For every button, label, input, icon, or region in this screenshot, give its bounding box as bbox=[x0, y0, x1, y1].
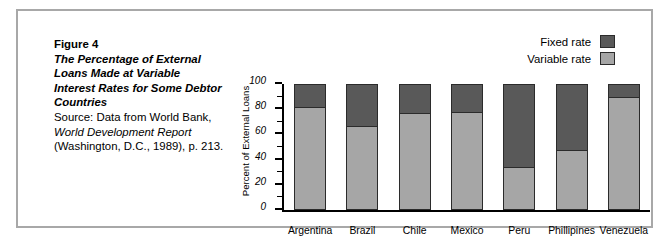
y-axis-tick-label: 20 bbox=[255, 176, 266, 187]
y-axis-tick-label: 100 bbox=[249, 75, 266, 86]
chart-axes: 020406080100 ArgentinaBrazilChileMexicoP… bbox=[282, 84, 650, 210]
y-axis-tick: 0 bbox=[275, 208, 282, 210]
bar-segment-fixed-rate bbox=[503, 84, 535, 167]
legend-label-variable-rate: Variable rate bbox=[527, 53, 591, 65]
figure-source-line-1: Source: Data from World Bank, bbox=[54, 110, 254, 125]
x-axis-label: Peru bbox=[494, 225, 544, 236]
x-axis-line bbox=[282, 210, 650, 212]
bar-column bbox=[556, 84, 588, 210]
figure-title-line-1: The Percentage of External bbox=[54, 52, 254, 67]
figure-frame: Figure 4 The Percentage of External Loan… bbox=[16, 9, 653, 228]
bar-segment-fixed-rate bbox=[451, 84, 483, 112]
bar-segment-fixed-rate bbox=[556, 84, 588, 150]
x-axis-label: Brazil bbox=[337, 225, 387, 236]
figure-source-line-3: (Washington, D.C., 1989), p. 213. bbox=[54, 139, 254, 154]
x-axis-labels: ArgentinaBrazilChileMexicoPeruPhillipine… bbox=[284, 225, 650, 236]
bar-column bbox=[451, 84, 483, 210]
bar-segment-variable-rate bbox=[556, 150, 588, 210]
bar-segment-fixed-rate bbox=[608, 84, 640, 97]
figure-container: Figure 4 The Percentage of External Loan… bbox=[0, 0, 669, 238]
bar-segment-variable-rate bbox=[608, 97, 640, 210]
x-axis-label: Mexico bbox=[442, 225, 492, 236]
x-axis-label: Venezuela bbox=[599, 225, 649, 236]
chart-legend: Fixed rate Variable rate bbox=[527, 35, 615, 65]
y-axis-tick bbox=[277, 121, 282, 122]
bar-segment-fixed-rate bbox=[399, 84, 431, 113]
y-axis-tick-label: 80 bbox=[255, 100, 266, 111]
y-axis-tick: 40 bbox=[275, 158, 282, 160]
x-axis-label: Argentina bbox=[285, 225, 335, 236]
figure-title-line-3: Interest Rates for Some Debtor bbox=[54, 81, 254, 96]
bar-segment-variable-rate bbox=[451, 112, 483, 210]
chart-plot-area: Percent of External Loans 020406080100 A… bbox=[244, 71, 654, 231]
legend-item-variable-rate: Variable rate bbox=[527, 52, 615, 65]
bar-segment-variable-rate bbox=[346, 126, 378, 210]
x-axis-label: Chile bbox=[390, 225, 440, 236]
y-axis-tick: 80 bbox=[275, 107, 282, 109]
bar-segment-variable-rate bbox=[399, 113, 431, 210]
bar-segment-variable-rate bbox=[503, 167, 535, 210]
figure-caption: Figure 4 The Percentage of External Loan… bbox=[54, 37, 254, 154]
figure-title-line-4: Countries bbox=[54, 95, 254, 110]
y-axis-title: Percent of External Loans bbox=[240, 71, 254, 211]
y-axis-tick: 20 bbox=[275, 183, 282, 185]
bar-segment-fixed-rate bbox=[294, 84, 326, 107]
figure-source-line-2: World Development Report bbox=[54, 125, 254, 140]
y-axis-tick-label: 0 bbox=[260, 201, 266, 212]
bar-column bbox=[294, 84, 326, 210]
bar-column bbox=[399, 84, 431, 210]
legend-swatch-fixed-rate bbox=[600, 35, 615, 48]
bar-column bbox=[503, 84, 535, 210]
figure-number: Figure 4 bbox=[54, 37, 254, 52]
legend-swatch-variable-rate bbox=[600, 52, 615, 65]
y-axis-tick bbox=[277, 196, 282, 197]
bar-segment-fixed-rate bbox=[346, 84, 378, 126]
bar-column bbox=[346, 84, 378, 210]
y-axis-tick-label: 60 bbox=[255, 125, 266, 136]
figure-title-line-2: Loans Made at Variable bbox=[54, 66, 254, 81]
legend-item-fixed-rate: Fixed rate bbox=[540, 35, 615, 48]
bar-segment-variable-rate bbox=[294, 107, 326, 210]
y-axis-tick: 100 bbox=[275, 82, 282, 84]
bar-column bbox=[608, 84, 640, 210]
y-axis-tick: 60 bbox=[275, 132, 282, 134]
y-axis-tick-label: 40 bbox=[255, 151, 266, 162]
legend-label-fixed-rate: Fixed rate bbox=[540, 36, 591, 48]
y-axis-tick bbox=[277, 96, 282, 97]
y-axis-tick bbox=[277, 146, 282, 147]
x-axis-label: Phillipines bbox=[547, 225, 597, 236]
y-axis-tick bbox=[277, 171, 282, 172]
bar-series-group bbox=[284, 84, 650, 210]
